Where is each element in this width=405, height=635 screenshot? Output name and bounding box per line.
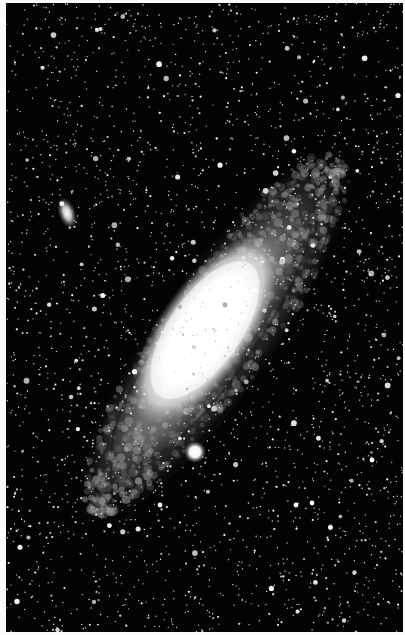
photo-frame — [0, 0, 405, 635]
starfield-canvas — [6, 3, 403, 632]
andromeda-galaxy-photo — [6, 3, 403, 632]
